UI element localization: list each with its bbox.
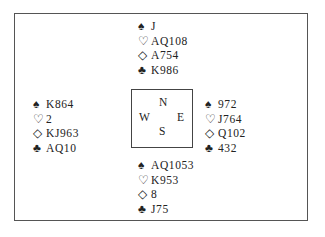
diamond-icon: ◇ bbox=[33, 126, 46, 141]
south-diamonds-row: ◇ 8 bbox=[138, 187, 194, 202]
west-clubs-cards: AQ10 bbox=[46, 141, 77, 156]
east-clubs-cards: 432 bbox=[218, 141, 237, 156]
north-clubs-row: ♣ K986 bbox=[138, 63, 188, 78]
west-diamonds-cards: KJ963 bbox=[46, 126, 79, 141]
north-clubs-cards: K986 bbox=[151, 63, 179, 78]
diamond-icon: ◇ bbox=[138, 187, 151, 202]
north-hearts-cards: AQ108 bbox=[151, 34, 188, 49]
north-hearts-row: ♡ AQ108 bbox=[138, 34, 188, 49]
spade-icon: ♠ bbox=[205, 97, 218, 112]
east-diamonds-cards: Q102 bbox=[218, 126, 246, 141]
east-clubs-row: ♣ 432 bbox=[205, 141, 246, 156]
west-diamonds-row: ◇ KJ963 bbox=[33, 126, 79, 141]
spade-icon: ♠ bbox=[33, 97, 46, 112]
north-diamonds-cards: A754 bbox=[151, 48, 179, 63]
south-hand: ♠ AQ1053 ♡ K953 ◇ 8 ♣ J75 bbox=[138, 158, 194, 216]
east-hand: ♠ 972 ♡ J764 ◇ Q102 ♣ 432 bbox=[205, 97, 246, 155]
heart-icon: ♡ bbox=[33, 112, 46, 127]
compass-east-label: E bbox=[177, 111, 184, 123]
diamond-icon: ◇ bbox=[138, 48, 151, 63]
east-spades-cards: 972 bbox=[218, 97, 237, 112]
south-clubs-row: ♣ J75 bbox=[138, 202, 194, 217]
west-spades-row: ♠ K864 bbox=[33, 97, 79, 112]
compass-south-label: S bbox=[159, 125, 165, 137]
compass-west-label: W bbox=[139, 111, 150, 123]
west-clubs-row: ♣ AQ10 bbox=[33, 141, 79, 156]
club-icon: ♣ bbox=[205, 141, 218, 156]
north-spades-cards: J bbox=[151, 19, 156, 34]
compass-north-label: N bbox=[159, 96, 167, 108]
north-spades-row: ♠ J bbox=[138, 19, 188, 34]
west-hand: ♠ K864 ♡ 2 ◇ KJ963 ♣ AQ10 bbox=[33, 97, 79, 155]
diamond-icon: ◇ bbox=[205, 126, 218, 141]
west-hearts-cards: 2 bbox=[46, 112, 52, 127]
south-diamonds-cards: 8 bbox=[151, 187, 157, 202]
west-hearts-row: ♡ 2 bbox=[33, 112, 79, 127]
east-spades-row: ♠ 972 bbox=[205, 97, 246, 112]
south-hearts-row: ♡ K953 bbox=[138, 173, 194, 188]
west-spades-cards: K864 bbox=[46, 97, 74, 112]
east-diamonds-row: ◇ Q102 bbox=[205, 126, 246, 141]
east-hearts-row: ♡ J764 bbox=[205, 112, 246, 127]
club-icon: ♣ bbox=[138, 202, 151, 217]
north-diamonds-row: ◇ A754 bbox=[138, 48, 188, 63]
south-spades-cards: AQ1053 bbox=[151, 158, 194, 173]
heart-icon: ♡ bbox=[138, 34, 151, 49]
heart-icon: ♡ bbox=[138, 173, 151, 188]
compass-box: N W E S bbox=[131, 89, 193, 148]
spade-icon: ♠ bbox=[138, 19, 151, 34]
south-hearts-cards: K953 bbox=[151, 173, 179, 188]
east-hearts-cards: J764 bbox=[218, 112, 242, 127]
south-clubs-cards: J75 bbox=[151, 202, 169, 217]
spade-icon: ♠ bbox=[138, 158, 151, 173]
club-icon: ♣ bbox=[138, 63, 151, 78]
north-hand: ♠ J ♡ AQ108 ◇ A754 ♣ K986 bbox=[138, 19, 188, 77]
heart-icon: ♡ bbox=[205, 112, 218, 127]
club-icon: ♣ bbox=[33, 141, 46, 156]
south-spades-row: ♠ AQ1053 bbox=[138, 158, 194, 173]
